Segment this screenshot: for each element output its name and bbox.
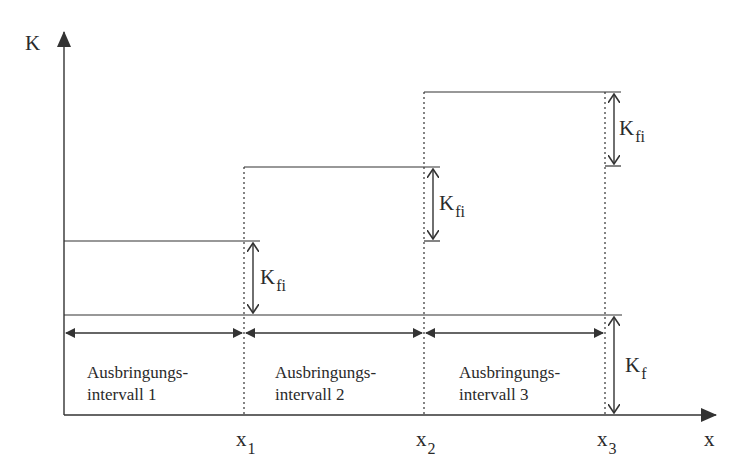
svg-text:intervall 1: intervall 1	[87, 385, 156, 404]
x-tick-1: x1	[236, 427, 256, 457]
kfi-label-2: Kfi	[439, 191, 466, 220]
x-axis-label: x	[704, 427, 715, 451]
kfi-label-1: Kfi	[260, 265, 287, 294]
svg-text:intervall 2: intervall 2	[275, 385, 344, 404]
y-axis-label: K	[25, 31, 40, 55]
svg-text:Ausbringungs-: Ausbringungs-	[87, 363, 188, 382]
interval-label-2: Ausbringungs- intervall 2	[275, 363, 376, 404]
x-tick-3: x3	[597, 427, 617, 457]
interval-label-3: Ausbringungs- intervall 3	[459, 363, 560, 404]
svg-text:Ausbringungs-: Ausbringungs-	[275, 363, 376, 382]
svg-text:Ausbringungs-: Ausbringungs-	[459, 363, 560, 382]
svg-text:intervall 3: intervall 3	[459, 385, 528, 404]
step-fixed-cost-diagram: K x Kfi Kfi Kfi Kf Ausbringungs- interva…	[0, 0, 739, 476]
interval-label-1: Ausbringungs- intervall 1	[87, 363, 188, 404]
x-tick-2: x2	[416, 427, 436, 457]
kf-label: Kf	[625, 353, 647, 382]
kfi-label-3: Kfi	[619, 116, 646, 145]
